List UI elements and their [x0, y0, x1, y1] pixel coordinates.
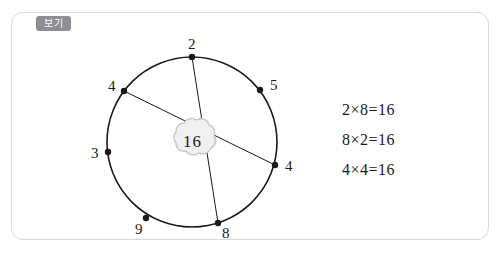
- node-label-3: 3: [91, 145, 99, 162]
- node-dot-8: [215, 220, 221, 226]
- equation-item: 8×2=16: [342, 131, 492, 149]
- node-label-8: 8: [222, 225, 230, 242]
- node-dot-4-upper-left: [121, 88, 127, 94]
- circle-diagram: 16 2 5 4 8 9 3 4: [72, 35, 312, 250]
- example-panel: 보기 16: [11, 12, 489, 240]
- node-dot-3: [105, 149, 111, 155]
- node-label-9: 9: [135, 221, 143, 238]
- node-dot-2: [189, 54, 195, 60]
- equation-list: 2×8=16 8×2=16 4×4=16: [342, 101, 492, 191]
- equation-item: 4×4=16: [342, 161, 492, 179]
- panel-tag-label: 보기: [36, 16, 71, 31]
- node-label-4-upper-left: 4: [108, 78, 116, 95]
- node-dot-9: [143, 215, 149, 221]
- node-label-2: 2: [188, 36, 196, 53]
- node-label-5: 5: [270, 77, 278, 94]
- node-label-4-right: 4: [285, 158, 293, 175]
- equation-item: 2×8=16: [342, 101, 492, 119]
- center-product-label: 16: [183, 132, 202, 152]
- screenshot-root: 보기 16: [0, 0, 501, 256]
- node-dot-4-right: [272, 162, 278, 168]
- node-dot-5: [257, 87, 263, 93]
